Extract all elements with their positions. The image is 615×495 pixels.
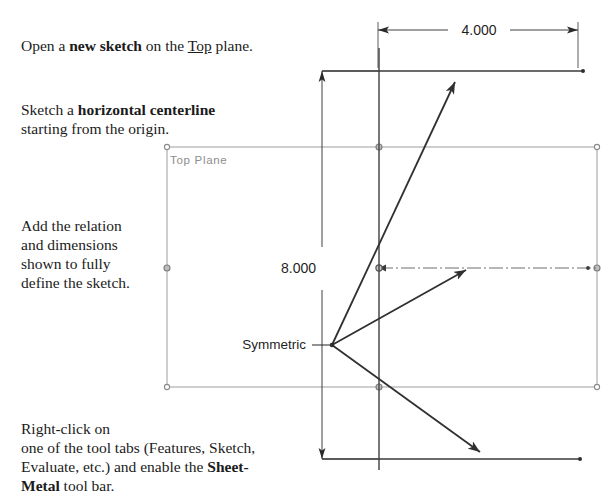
- dimension-value-horizontal[interactable]: 4.000: [461, 22, 496, 38]
- plane-handle-left-mid[interactable]: [164, 265, 170, 271]
- dimension-vertical-8[interactable]: 8.000: [281, 71, 378, 459]
- lower-arrow-line[interactable]: [332, 345, 480, 452]
- top-line-endpoint[interactable]: [581, 69, 585, 73]
- dimension-value-vertical[interactable]: 8.000: [281, 260, 316, 276]
- plane-handle-top-left[interactable]: [164, 144, 169, 149]
- horizontal-centerline[interactable]: [376, 265, 597, 272]
- symmetric-relation-callout[interactable]: Symmetric: [242, 337, 332, 352]
- sketch-arrow-lines[interactable]: [330, 82, 480, 452]
- dimension-horizontal-4[interactable]: 4.000: [378, 22, 578, 68]
- plane-handle-top-right[interactable]: [594, 144, 599, 149]
- symmetric-label[interactable]: Symmetric: [242, 337, 306, 352]
- plane-handle-bottom-right[interactable]: [594, 384, 599, 389]
- top-plane-label: Top Plane: [170, 154, 227, 166]
- bottom-line-endpoint[interactable]: [578, 457, 582, 461]
- centerline-endpoint[interactable]: [586, 266, 590, 270]
- middle-arrow-line[interactable]: [332, 270, 466, 345]
- upper-arrow-line[interactable]: [332, 82, 455, 345]
- plane-handle-bottom-left[interactable]: [164, 384, 169, 389]
